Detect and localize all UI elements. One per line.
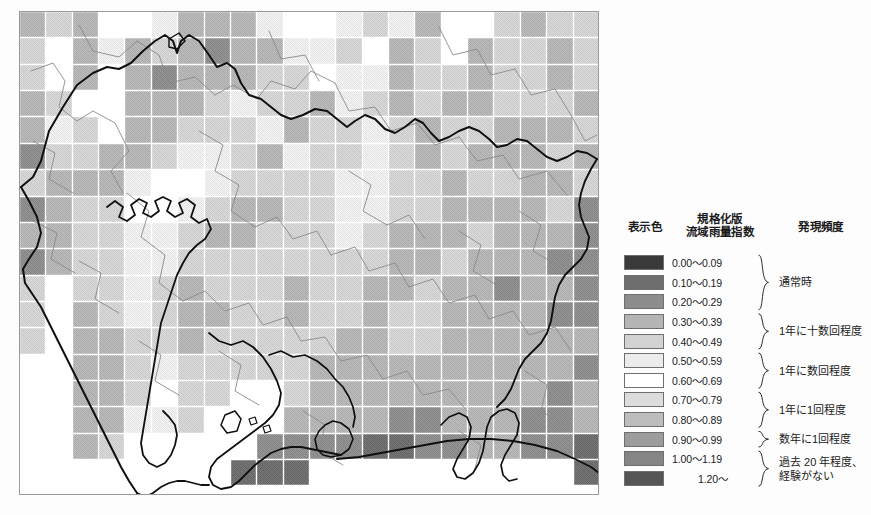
legend-header-index: 規格化版 流域雨量指数: [672, 213, 768, 239]
legend-color-swatch: [624, 432, 664, 447]
legend-color-swatch: [624, 314, 664, 329]
legend-frequency-label: 数年に1回程度: [779, 432, 851, 446]
legend-color-swatch: [624, 334, 664, 349]
legend-frequency-label: 過去 20 年程度、経験がない: [779, 455, 871, 483]
legend-value-label: 0.50～0.59: [672, 351, 754, 371]
legend-value-label: 0.60～0.69: [672, 371, 754, 391]
legend-header-index-line2: 流域雨量指数: [672, 226, 768, 239]
legend-color-swatch: [624, 373, 664, 388]
legend: 表示色 規格化版 流域雨量指数 発現頻度 0.00～0.090.10～0.190…: [612, 205, 864, 495]
legend-frequency-label: 1年に数回程度: [779, 364, 851, 378]
legend-color-swatch: [624, 275, 664, 290]
legend-value-label: 0.00～0.09: [672, 253, 754, 273]
legend-value-label: 0.80～0.89: [672, 410, 754, 430]
legend-swatch-row: [624, 429, 668, 449]
legend-value-column: 0.00～0.090.10～0.190.20～0.290.30～0.390.40…: [672, 253, 754, 488]
legend-frequency-label: 通常時: [779, 275, 812, 289]
legend-swatch-row: [624, 253, 668, 273]
legend-color-swatch: [624, 392, 664, 407]
map-panel[interactable]: [19, 11, 599, 495]
legend-swatch-row: [624, 469, 668, 489]
legend-color-swatch: [624, 255, 664, 270]
legend-swatch-row: [624, 331, 668, 351]
legend-value-label: 0.30～0.39: [672, 312, 754, 332]
legend-value-label: 1.00～1.19: [672, 449, 754, 469]
legend-value-label: 0.40～0.49: [672, 331, 754, 351]
legend-frequency-column: 通常時1年に十数回程度1年に数回程度1年に1回程度数年に1回程度過去 20 年程…: [775, 253, 867, 493]
legend-color-swatch: [624, 412, 664, 427]
legend-value-label: 0.20～0.29: [672, 292, 754, 312]
legend-swatch-row: [624, 292, 668, 312]
legend-color-swatch: [624, 294, 664, 309]
legend-swatch-row: [624, 449, 668, 469]
legend-value-label: 1.20～: [672, 469, 754, 489]
legend-swatch-row: [624, 312, 668, 332]
legend-swatch-row: [624, 410, 668, 430]
legend-brace-column: [756, 253, 772, 493]
figure-root: 表示色 規格化版 流域雨量指数 発現頻度 0.00～0.090.10～0.190…: [0, 0, 871, 515]
legend-value-label: 0.70～0.79: [672, 390, 754, 410]
legend-swatch-row: [624, 371, 668, 391]
legend-color-swatch: [624, 451, 664, 466]
legend-value-label: 0.90～0.99: [672, 429, 754, 449]
legend-value-label: 0.10～0.19: [672, 273, 754, 293]
legend-header-color: 表示色: [616, 221, 674, 234]
legend-swatch-row: [624, 390, 668, 410]
prefecture-boundary-layer: [19, 11, 599, 495]
legend-color-swatch: [624, 471, 664, 486]
legend-header-index-line1: 規格化版: [672, 213, 768, 226]
legend-frequency-label: 1年に1回程度: [779, 403, 846, 417]
legend-swatch-row: [624, 351, 668, 371]
legend-frequency-label: 1年に十数回程度: [779, 324, 862, 338]
legend-header-frequency: 発現頻度: [778, 221, 864, 234]
legend-swatch-row: [624, 273, 668, 293]
legend-color-swatch: [624, 353, 664, 368]
legend-swatch-column: [624, 253, 668, 488]
legend-brace-icon: [756, 253, 772, 498]
